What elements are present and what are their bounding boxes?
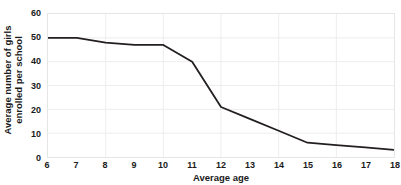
x-axis-tick-label: 14	[274, 160, 284, 170]
y-axis-tick-label: 20	[31, 105, 41, 115]
x-axis-tick-label: 8	[102, 160, 107, 170]
x-axis-tick-label: 7	[73, 160, 78, 170]
y-axis-tick-label: 10	[31, 129, 41, 139]
y-axis-tick-labels: 0102030405060	[24, 0, 44, 185]
y-axis-title-line-2: enrolled per school	[13, 26, 24, 135]
plot-svg	[48, 14, 394, 157]
x-axis-tick-label: 13	[245, 160, 255, 170]
line-chart: Average number of girls enrolled per sch…	[0, 0, 401, 185]
plot-area	[47, 13, 395, 158]
grid-lines	[48, 14, 394, 157]
x-axis-tick-label: 17	[361, 160, 371, 170]
y-axis-tick-label: 30	[31, 81, 41, 91]
x-axis-tick-label: 11	[187, 160, 197, 170]
x-axis-tick-label: 15	[303, 160, 313, 170]
x-axis-tick-label: 10	[158, 160, 168, 170]
x-axis-tick-label: 9	[131, 160, 136, 170]
y-axis-tick-label: 40	[31, 56, 41, 66]
y-axis-title-line-1: Average number of girls	[2, 26, 13, 135]
x-axis-tick-label: 12	[216, 160, 226, 170]
x-axis-tick-label: 16	[332, 160, 342, 170]
y-axis-title: Average number of girls enrolled per sch…	[0, 0, 26, 160]
y-axis-tick-label: 50	[31, 32, 41, 42]
x-axis-tick-label: 18	[390, 160, 400, 170]
y-axis-tick-label: 0	[36, 153, 41, 163]
x-axis-title: Average age	[47, 172, 395, 183]
y-axis-tick-label: 60	[31, 8, 41, 18]
x-axis-tick-label: 6	[44, 160, 49, 170]
